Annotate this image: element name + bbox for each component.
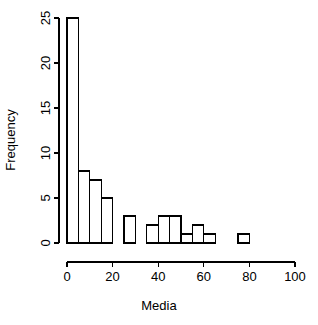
x-axis xyxy=(67,262,295,267)
y-tick-label: 5 xyxy=(38,194,53,201)
y-tick-labels: 0510152025 xyxy=(38,11,53,247)
histogram-bar xyxy=(170,216,181,243)
x-tick-label: 60 xyxy=(197,269,211,284)
histogram-svg: 020406080100 0510152025 Media Frequency xyxy=(0,0,318,325)
histogram-bar xyxy=(158,216,169,243)
histogram-bar xyxy=(147,225,158,243)
histogram-bar xyxy=(238,234,249,243)
y-tick-label: 15 xyxy=(38,101,53,115)
y-tick-label: 0 xyxy=(38,239,53,246)
histogram-bar xyxy=(192,225,203,243)
histogram-bar xyxy=(124,216,135,243)
histogram-bar xyxy=(101,198,112,243)
x-tick-label: 20 xyxy=(105,269,119,284)
x-tick-labels: 020406080100 xyxy=(63,269,305,284)
x-tick-label: 0 xyxy=(63,269,70,284)
histogram-bar xyxy=(181,234,192,243)
histogram-bar xyxy=(204,234,215,243)
x-tick-label: 80 xyxy=(242,269,256,284)
y-tick-label: 25 xyxy=(38,11,53,25)
x-tick-label: 40 xyxy=(151,269,165,284)
histogram-bar xyxy=(67,18,78,243)
y-axis-title: Frequency xyxy=(3,109,18,171)
y-tick-label: 20 xyxy=(38,56,53,70)
y-axis xyxy=(54,18,59,243)
y-tick-label: 10 xyxy=(38,146,53,160)
x-axis-title: Media xyxy=(141,298,177,313)
histogram-plot: 020406080100 0510152025 Media Frequency xyxy=(0,0,318,325)
histogram-bar xyxy=(90,180,101,243)
histogram-bar xyxy=(78,171,89,243)
bars-group xyxy=(67,18,249,243)
x-tick-label: 100 xyxy=(284,269,306,284)
